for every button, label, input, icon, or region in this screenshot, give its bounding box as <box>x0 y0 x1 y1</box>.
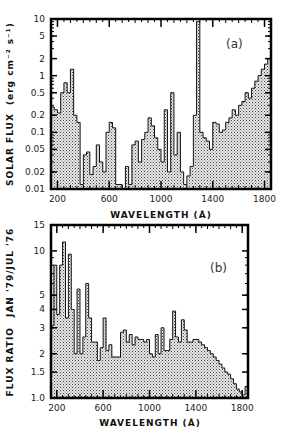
y-tick-label: 3 <box>39 323 45 333</box>
panel-a-tag: (a) <box>226 37 243 51</box>
y-tick-label: 0.05 <box>25 144 45 154</box>
y-tick-label: 0.1 <box>31 127 45 137</box>
y-tick-label: 10 <box>34 14 46 24</box>
y-tick-label: 0.02 <box>25 167 45 177</box>
x-tick-label: 1800 <box>253 194 276 204</box>
y-tick-label: 1 <box>39 71 45 81</box>
x-tick-label: 600 <box>101 194 118 204</box>
figure: 200600100014001800 105210.50.20.10.050.0… <box>0 0 286 433</box>
y-tick-label: 5 <box>39 31 45 41</box>
y-tick-label: 0.5 <box>31 88 45 98</box>
panel-a-x-label: WAVELENGTH (Å) <box>110 210 212 220</box>
x-tick-label: 1400 <box>184 403 207 413</box>
y-tick-label: 2 <box>39 349 45 359</box>
x-tick-label: 600 <box>95 403 112 413</box>
panel-b-y-label: FLUX RATIO JAN '79/JUL '76 <box>5 228 15 397</box>
x-tick-label: 200 <box>48 403 65 413</box>
x-tick-label: 1000 <box>150 194 173 204</box>
y-tick-label: 1.0 <box>31 393 46 403</box>
y-tick-label: 1.5 <box>31 367 45 377</box>
panel-b-y-label-units: JAN '79/JUL '76 <box>5 228 15 318</box>
panel-b-x-label: WAVELENGTH (Å) <box>99 418 201 428</box>
y-tick-label: 5 <box>39 290 45 300</box>
panel-b-y-label-main: FLUX RATIO <box>5 327 15 396</box>
panel-b: 200600100014001800 151054321.51.0 (b) WA… <box>5 220 254 428</box>
x-tick-label: 1000 <box>138 403 161 413</box>
panel-a-y-label-main: SOLAR FLUX <box>5 113 15 186</box>
x-tick-label: 200 <box>49 194 66 204</box>
panel-b-tag: (b) <box>210 261 227 275</box>
y-tick-label: 0.2 <box>31 110 45 120</box>
y-tick-label: 2 <box>39 54 45 64</box>
panel-a-y-label: SOLAR FLUX (erg cm⁻² s⁻¹) <box>5 22 15 186</box>
y-tick-label: 15 <box>34 220 45 230</box>
x-tick-label: 1800 <box>231 403 254 413</box>
y-tick-label: 0.01 <box>25 184 45 194</box>
y-tick-label: 10 <box>34 246 46 256</box>
x-tick-label: 1400 <box>201 194 224 204</box>
y-tick-label: 4 <box>39 304 45 314</box>
panel-a: 200600100014001800 105210.50.20.10.050.0… <box>5 14 276 220</box>
panel-a-y-label-units: (erg cm⁻² s⁻¹) <box>5 22 15 105</box>
